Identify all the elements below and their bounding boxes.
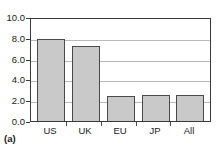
y-axis: 10.0 8.0 6.0 4.0 2.0 0.0	[0, 0, 28, 148]
bar-all[interactable]	[176, 95, 204, 122]
y-tick-label: 8.0	[12, 34, 25, 44]
bar-jp[interactable]	[142, 95, 170, 122]
y-tick-label: 2.0	[12, 96, 25, 106]
bar-slot	[107, 19, 135, 121]
bar-slot	[72, 19, 100, 121]
figure-panel: 10.0 8.0 6.0 4.0 2.0 0.0	[0, 0, 223, 148]
figure-caption: (a)	[4, 133, 16, 144]
bar-slot	[142, 19, 170, 121]
x-axis: US UK EU JP All	[30, 125, 211, 139]
x-tick-label-eu: EU	[103, 125, 137, 136]
bar-series	[31, 19, 210, 121]
y-tick-label: 10.0	[7, 13, 26, 23]
y-tick-label: 6.0	[12, 55, 25, 65]
bar-uk[interactable]	[72, 46, 100, 122]
bar-us[interactable]	[37, 39, 65, 121]
y-tick-mark	[26, 122, 30, 123]
bar-eu[interactable]	[107, 96, 135, 122]
bar-slot	[176, 19, 204, 121]
y-tick-label: 4.0	[12, 75, 25, 85]
x-tick-label-uk: UK	[68, 125, 102, 136]
y-tick-label: 0.0	[12, 117, 25, 127]
bar-slot	[37, 19, 65, 121]
x-tick-label-us: US	[33, 125, 67, 136]
x-tick-label-all: All	[172, 125, 206, 136]
x-tick-label-jp: JP	[138, 125, 172, 136]
